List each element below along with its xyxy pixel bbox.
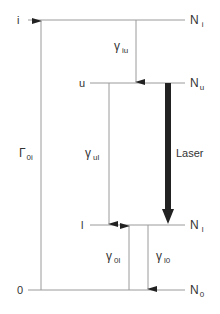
population-label-l: Nl — [190, 218, 204, 234]
population-label-u: Nu — [190, 76, 204, 92]
label-gamma-ul: γul — [85, 146, 99, 162]
svg-text:Nu: Nu — [190, 76, 204, 92]
level-label-0: 0 — [17, 284, 23, 296]
population-label-i: Ni — [190, 13, 204, 29]
label-gamma-0l: γ0l — [106, 249, 120, 265]
label-Gamma-0i: Γ0i — [19, 146, 33, 162]
level-label-i: i — [17, 14, 19, 26]
svg-text:N0: N0 — [190, 283, 205, 299]
energy-level-diagram: i u l 0 Ni Nu Nl N0 Γ0i γiu γul Laser γ0… — [0, 0, 220, 314]
svg-text:Ni: Ni — [190, 13, 204, 29]
level-label-l: l — [81, 219, 83, 231]
laser-arrow — [162, 83, 174, 224]
label-gamma-iu: γiu — [114, 39, 128, 55]
label-laser: Laser — [176, 147, 204, 159]
level-label-u: u — [79, 77, 85, 89]
population-label-0: N0 — [190, 283, 205, 299]
svg-text:Nl: Nl — [190, 218, 204, 234]
label-gamma-l0: γl0 — [156, 249, 171, 265]
